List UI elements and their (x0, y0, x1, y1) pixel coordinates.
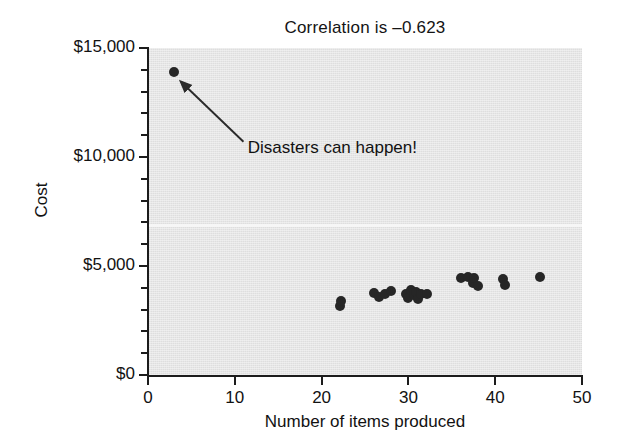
chart-title: Correlation is –0.623 (148, 18, 582, 38)
y-tick-major (139, 47, 148, 49)
y-tick-minor (141, 91, 148, 93)
scan-artifact-line (148, 224, 582, 227)
x-tick-major (234, 376, 236, 385)
x-tick-major (321, 376, 323, 385)
data-point (422, 289, 432, 299)
x-axis-title: Number of items produced (148, 412, 582, 432)
x-tick-label: 20 (292, 388, 352, 408)
y-tick-label: $5,000 (83, 255, 135, 275)
y-tick-label: $0 (116, 364, 135, 384)
y-tick-label: $15,000 (74, 37, 135, 57)
y-tick-minor (141, 330, 148, 332)
y-tick-minor (141, 112, 148, 114)
plot-area (148, 48, 582, 375)
y-tick-major (139, 265, 148, 267)
x-tick-major (147, 376, 149, 385)
y-tick-minor (141, 134, 148, 136)
y-axis-title: Cost (32, 150, 52, 250)
y-tick-major (139, 156, 148, 158)
data-point (473, 281, 483, 291)
x-tick-label: 30 (378, 388, 438, 408)
y-axis-line (147, 47, 149, 377)
x-tick-label: 10 (205, 388, 265, 408)
y-tick-minor (141, 178, 148, 180)
data-point (386, 286, 396, 296)
y-tick-minor (141, 200, 148, 202)
plot-texture (148, 48, 582, 375)
x-tick-major (581, 376, 583, 385)
y-tick-minor (141, 287, 148, 289)
y-tick-label: $10,000 (74, 146, 135, 166)
data-point (535, 272, 545, 282)
y-tick-minor (141, 221, 148, 223)
y-tick-minor (141, 243, 148, 245)
x-tick-major (494, 376, 496, 385)
figure-root: Correlation is –0.623 $0$5,000$10,000$15… (0, 0, 618, 445)
y-tick-minor (141, 309, 148, 311)
data-point (336, 296, 346, 306)
x-tick-label: 50 (552, 388, 612, 408)
x-tick-label: 0 (118, 388, 178, 408)
annotation-label: Disasters can happen! (248, 138, 417, 158)
x-axis-line (147, 375, 583, 377)
y-tick-minor (141, 69, 148, 71)
x-tick-major (407, 376, 409, 385)
y-tick-minor (141, 352, 148, 354)
x-tick-label: 40 (465, 388, 525, 408)
data-point (169, 67, 179, 77)
data-point (500, 280, 510, 290)
